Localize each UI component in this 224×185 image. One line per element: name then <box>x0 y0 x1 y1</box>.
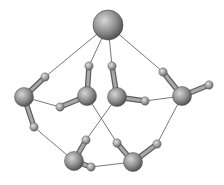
water-5 <box>65 136 96 171</box>
oxygen-atom <box>124 153 143 172</box>
oxygen-atom <box>108 88 127 107</box>
water-4 <box>159 68 213 106</box>
water-2 <box>56 62 97 111</box>
hydrogen-atom <box>87 163 95 171</box>
oxygen-atom <box>15 88 34 107</box>
hydrogen-atom <box>205 81 213 89</box>
hydrogen-atom <box>41 73 49 81</box>
oxygen-atom <box>65 152 84 171</box>
atoms <box>15 10 214 172</box>
hydrogen-atom <box>153 140 161 148</box>
covalent-bonds <box>24 66 209 167</box>
hydrogen-atom <box>85 62 93 70</box>
central-ion <box>93 10 123 40</box>
hydrogen-atom <box>113 139 121 147</box>
hydrogen-atom <box>56 103 64 111</box>
water-6 <box>113 139 161 172</box>
hydrogen-atom <box>141 97 149 105</box>
hydrogen-atom <box>159 68 167 76</box>
molecular-cluster-diagram <box>0 0 224 185</box>
hydrogen-atom <box>30 123 38 131</box>
oxygen-atom <box>78 87 97 106</box>
hydrogen-atom <box>82 136 90 144</box>
hydrogen-atom <box>108 62 116 70</box>
oxygen-atom <box>173 87 192 106</box>
